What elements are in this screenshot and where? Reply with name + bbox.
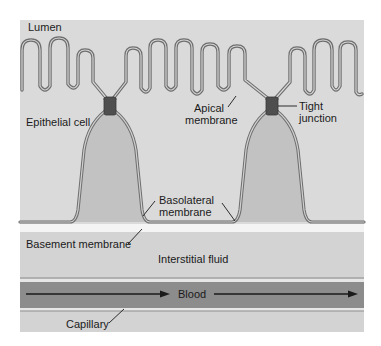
label-apical-line2: membrane xyxy=(185,114,238,126)
basement-membrane xyxy=(20,224,364,232)
label-lumen: Lumen xyxy=(28,21,62,33)
label-tight-junction-line2: junction xyxy=(298,112,337,124)
label-interstitial-fluid: Interstitial fluid xyxy=(158,253,228,265)
label-capillary: Capillary xyxy=(66,318,109,330)
label-basolateral-line2: membrane xyxy=(159,206,212,218)
tight-junction-left xyxy=(104,97,116,115)
label-tight-junction-line1: Tight xyxy=(299,100,323,112)
label-epithelial-cell: Epithelial cell xyxy=(26,116,90,128)
tight-junction-right xyxy=(266,97,278,115)
capillary-gap-top xyxy=(20,279,364,282)
label-apical-line1: Apical xyxy=(194,102,224,114)
label-blood: Blood xyxy=(178,288,206,300)
epithelial-transport-diagram: Lumen Epithelial cell Apical membrane Ti… xyxy=(0,0,381,346)
label-basolateral-line1: Basolateral xyxy=(159,194,214,206)
label-basement-membrane: Basement membrane xyxy=(26,238,131,250)
